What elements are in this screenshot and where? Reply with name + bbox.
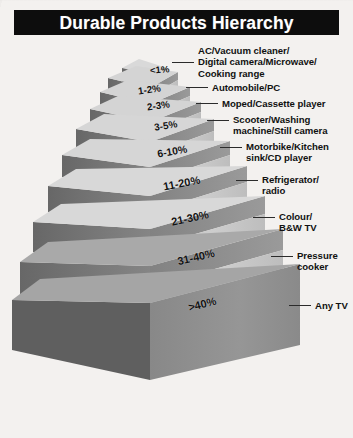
leader-line-6-10 bbox=[220, 147, 242, 148]
category-label-lt-1: AC/Vacuum cleaner/ Digital camera/Microw… bbox=[198, 45, 317, 79]
pyramid-base bbox=[12, 264, 300, 380]
leader-line-lt-1 bbox=[172, 62, 194, 63]
chart-title-bar: Durable Products Hierarchy bbox=[14, 10, 339, 35]
category-label-21-30: Colour/ B&W TV bbox=[279, 211, 317, 234]
category-label-2-3: Moped/Cassette player bbox=[222, 98, 325, 109]
leader-line-11-20 bbox=[236, 180, 258, 181]
leader-line-3-5 bbox=[207, 120, 229, 121]
category-label-31-40: Pressure cooker bbox=[297, 250, 338, 273]
page-title: Durable Products Hierarchy bbox=[14, 12, 339, 33]
leader-line-1-2 bbox=[186, 87, 208, 88]
leader-line-gt-40 bbox=[289, 305, 311, 306]
category-label-3-5: Scooter/Washing machine/Still camera bbox=[233, 114, 327, 137]
tier-percent-lt-1: <1% bbox=[150, 63, 170, 76]
category-label-11-20: Refrigerator/ radio bbox=[262, 174, 319, 197]
category-label-gt-40: Any TV bbox=[315, 300, 348, 311]
leader-line-31-40 bbox=[271, 256, 293, 257]
leader-line-21-30 bbox=[253, 217, 275, 218]
leader-line-2-3 bbox=[196, 103, 218, 104]
category-label-6-10: Motorbike/Kitchen sink/CD player bbox=[246, 141, 329, 164]
category-label-1-2: Automobile/PC bbox=[212, 82, 280, 93]
